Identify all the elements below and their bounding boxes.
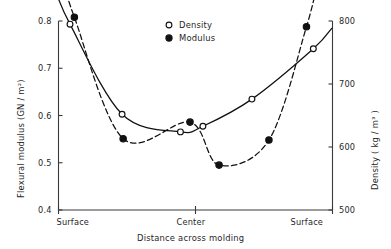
chart-figure: 0.40.50.60.70.8 500600700800 SurfaceCent… — [0, 0, 391, 249]
legend-item-density: Density — [163, 18, 215, 31]
data-point-modulus-4 — [266, 137, 272, 143]
axis-tick-label: 0.6 — [38, 111, 52, 121]
right-axis-ticks — [329, 21, 333, 210]
legend-label-modulus: Modulus — [179, 33, 215, 43]
legend-label-density: Density — [179, 20, 212, 30]
x-axis-title: Distance across molding — [137, 233, 244, 243]
right-axis-title: Density ( kg / m³ ) — [370, 110, 380, 190]
data-point-modulus-3 — [216, 162, 222, 168]
data-point-density-5 — [310, 46, 316, 52]
data-point-density-2 — [178, 129, 184, 135]
data-point-density-4 — [249, 96, 255, 102]
axis-tick-label: Surface — [291, 217, 324, 227]
axis-tick-label: 0.5 — [38, 158, 52, 168]
chart-legend: Density Modulus — [163, 18, 215, 44]
axis-tick-label: 700 — [339, 79, 355, 89]
axis-tick-label: 800 — [339, 16, 355, 26]
data-point-density-3 — [200, 123, 206, 129]
axis-tick-label: 0.8 — [38, 16, 52, 26]
axis-tick-label: Surface — [57, 217, 90, 227]
data-point-density-0 — [67, 21, 73, 27]
axis-tick-label: 0.4 — [38, 205, 52, 215]
axis-tick-label: Center — [177, 217, 206, 227]
axis-tick-label: 500 — [339, 205, 355, 215]
left-axis-ticks — [59, 21, 63, 210]
data-point-modulus-5 — [303, 23, 309, 29]
data-point-modulus-2 — [187, 119, 193, 125]
axis-tick-label: 0.7 — [38, 63, 52, 73]
data-point-density-1 — [119, 111, 125, 117]
data-point-modulus-0 — [71, 14, 77, 20]
filled-circle-icon — [163, 31, 176, 44]
legend-item-modulus: Modulus — [163, 31, 215, 44]
open-circle-icon — [163, 18, 176, 31]
axis-tick-label: 600 — [339, 142, 355, 152]
data-point-modulus-1 — [120, 135, 126, 141]
left-axis-title: Flexural modulus (GN / m²) — [16, 79, 26, 198]
